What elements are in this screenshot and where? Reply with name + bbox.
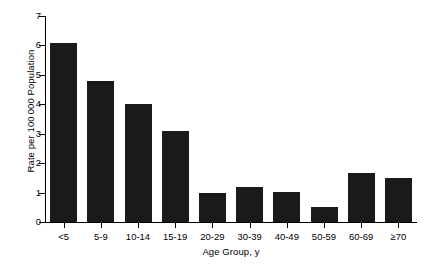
x-tick-label: 20-29 [200, 232, 224, 242]
bar [311, 207, 338, 222]
x-tick-label: 50-59 [312, 232, 336, 242]
x-tick-label: 15-19 [163, 232, 187, 242]
bar [50, 43, 77, 223]
x-tick-label: 5-9 [94, 232, 108, 242]
y-tick-label: 2 [36, 158, 41, 168]
x-tick-mark [398, 223, 399, 228]
x-tick-label: 30-39 [237, 232, 261, 242]
bar-chart-figure: Rate per 100 000 Population 01234567 <55… [0, 0, 425, 268]
x-tick-mark [64, 223, 65, 228]
x-tick-label: 60-69 [349, 232, 373, 242]
bar [87, 81, 114, 222]
y-tick-label: 5 [36, 70, 41, 80]
bar [236, 187, 263, 222]
y-tick-label: 0 [36, 217, 41, 227]
y-tick-label: 3 [36, 129, 41, 139]
x-tick-label: 10-14 [126, 232, 150, 242]
x-tick-mark [250, 223, 251, 228]
x-tick-label: 40-49 [275, 232, 299, 242]
x-tick-mark [175, 223, 176, 228]
x-tick-mark [361, 223, 362, 228]
x-tick-mark [324, 223, 325, 228]
x-axis-title: Age Group, y [45, 246, 417, 257]
x-tick-mark [101, 223, 102, 228]
bar [199, 193, 226, 222]
bar [162, 131, 189, 222]
y-tick-label: 7 [36, 11, 41, 21]
x-tick-mark [287, 223, 288, 228]
plot-area: 01234567 <55-910-1415-1920-2930-3940-495… [45, 16, 417, 222]
x-tick-label: ≥70 [391, 232, 407, 242]
bar [348, 173, 375, 222]
y-tick-label: 6 [36, 41, 41, 51]
y-axis-line [45, 16, 46, 222]
x-tick-mark [212, 223, 213, 228]
x-tick-mark [138, 223, 139, 228]
bar [385, 178, 412, 222]
y-tick-label: 4 [36, 100, 41, 110]
bar [125, 104, 152, 222]
x-tick-label: <5 [58, 232, 69, 242]
y-tick-label: 1 [36, 188, 41, 198]
bar [273, 192, 300, 222]
